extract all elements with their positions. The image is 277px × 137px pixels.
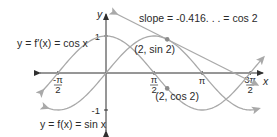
point-label: (2, cos 2)	[155, 90, 199, 102]
x-axis-label: x	[262, 75, 269, 87]
cos-curve-label: y = f′(x) = cos x	[17, 37, 89, 49]
y-tick-label: -1	[92, 105, 100, 116]
axes: x y	[40, 8, 269, 131]
sin-curve-label: y = f(x) = sin x	[40, 118, 107, 130]
x-tick-label-denominator: 2	[55, 84, 60, 95]
point-marker	[165, 37, 170, 42]
points: (2, sin 2)(2, cos 2)	[134, 37, 199, 102]
point-label: (2, sin 2)	[134, 43, 175, 55]
y-axis-label: y	[96, 8, 103, 20]
y-tick-label: 1	[95, 31, 100, 42]
curves	[43, 14, 263, 110]
x-tick-label-denominator: 2	[248, 84, 253, 95]
chart: x y -π2π2π3π21-1 slope = -0.416. . . = c…	[0, 0, 277, 137]
annotations: slope = -0.416. . . = cos 2 y = f′(x) = …	[17, 12, 258, 130]
slope-annotation: slope = -0.416. . . = cos 2	[139, 12, 258, 24]
